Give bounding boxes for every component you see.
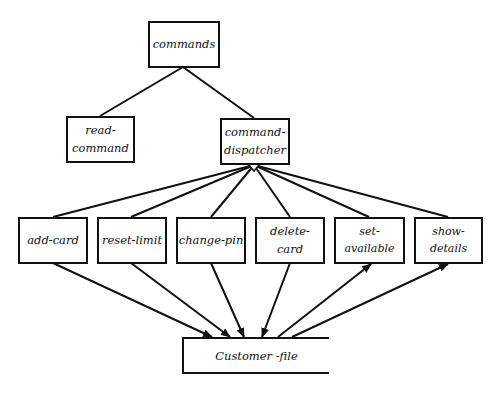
edge-commands-dispatcher — [183, 67, 254, 118]
module-show-details: show-details — [414, 217, 483, 264]
module-label: change-pin — [179, 232, 244, 249]
module-set-available: set-available — [334, 217, 405, 264]
flow-add-card-to-file — [53, 263, 212, 337]
module-label-line2: dispatcher — [224, 142, 286, 159]
flow-delete-card-to-file — [262, 263, 290, 337]
edge-dispatcher-add-card — [53, 165, 254, 217]
module-change-pin: change-pin — [176, 217, 246, 264]
flow-file-to-show-details — [292, 264, 448, 337]
module-label: reset-limit — [102, 232, 162, 249]
module-label: set-available — [336, 224, 403, 257]
edge-dispatcher-reset-limit — [131, 165, 254, 217]
data-store-customer-file: Customer -file — [182, 337, 329, 374]
module-read-command: read- command — [66, 116, 135, 163]
module-delete-card: delete-card — [255, 217, 325, 264]
data-store-label: Customer -file — [215, 349, 298, 363]
module-label-line2: command — [72, 140, 129, 157]
module-label: show-details — [416, 224, 481, 257]
module-label-line1: command- — [225, 124, 286, 141]
module-label-line1: read- — [85, 122, 115, 139]
module-command-dispatcher: command- dispatcher — [220, 118, 290, 165]
edge-dispatcher-change-pin — [211, 165, 254, 217]
flow-file-to-set-available — [278, 264, 371, 337]
module-commands: commands — [148, 21, 220, 68]
module-label: add-card — [27, 232, 79, 249]
module-reset-limit: reset-limit — [97, 217, 167, 264]
module-label: delete-card — [257, 223, 323, 258]
module-label: commands — [153, 36, 216, 53]
module-add-card: add-card — [18, 217, 88, 264]
edge-commands-read-command — [100, 67, 183, 116]
